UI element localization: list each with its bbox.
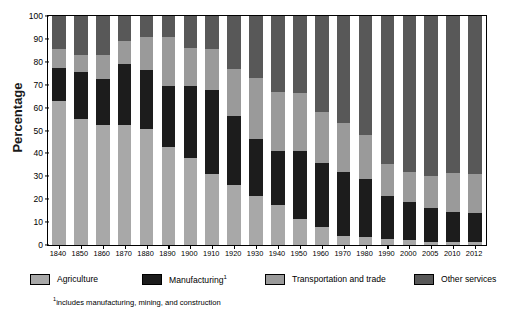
bar-1850[interactable] (74, 16, 88, 245)
bar-segment (359, 179, 373, 237)
bar-2000[interactable] (403, 16, 417, 245)
x-axis-tick (59, 245, 60, 249)
bar-1950[interactable] (293, 16, 307, 245)
y-axis-tick: 30 (34, 171, 48, 181)
bar-segment (468, 16, 482, 174)
legend-swatch-icon (30, 274, 50, 285)
bar-segment (424, 208, 438, 241)
x-axis-label: 1960 (313, 249, 329, 258)
x-axis-tick (81, 245, 82, 249)
bar-segment (293, 93, 307, 151)
bar-segment (118, 41, 132, 64)
bar-segment (271, 151, 285, 205)
y-axis-tick: 70 (34, 80, 48, 90)
bar-segment (96, 55, 110, 79)
legend-label: Agriculture (57, 274, 98, 284)
bar-1990[interactable] (381, 16, 395, 245)
bar-segment (184, 16, 198, 48)
x-axis-tick (387, 245, 388, 249)
x-axis-label: 1840 (50, 249, 66, 258)
bar-1860[interactable] (96, 16, 110, 245)
bar-segment (424, 16, 438, 176)
x-axis-tick (190, 245, 191, 249)
bar-segment (96, 16, 110, 55)
y-axis-tick: 10 (34, 217, 48, 227)
bar-2010[interactable] (446, 16, 460, 245)
chart-legend: AgricultureManufacturing1Transportation … (30, 272, 480, 288)
bar-segment (403, 172, 417, 202)
bar-segment (249, 196, 263, 245)
legend-item-0[interactable]: Agriculture (30, 272, 98, 286)
x-axis-tick (453, 245, 454, 249)
y-axis-tick: 100 (29, 11, 48, 21)
bar-segment (271, 205, 285, 245)
x-axis-label: 1970 (334, 249, 350, 258)
bar-segment (249, 16, 263, 78)
plot-area: 0102030405060708090100 (47, 15, 487, 246)
legend-label: Other services (441, 274, 496, 284)
legend-item-1[interactable]: Manufacturing1 (142, 272, 227, 286)
bar-1890[interactable] (162, 16, 176, 245)
x-axis-tick (278, 245, 279, 249)
bar-1900[interactable] (184, 16, 198, 245)
x-axis-tick (256, 245, 257, 249)
x-axis-label: 1950 (291, 249, 307, 258)
bar-segment (162, 86, 176, 147)
bar-segment (381, 164, 395, 196)
bar-2005[interactable] (424, 16, 438, 245)
bar-segment (293, 219, 307, 245)
bar-segment (403, 16, 417, 172)
y-axis-tick: 90 (34, 34, 48, 44)
bar-segment (52, 49, 66, 67)
bar-segment (205, 174, 219, 245)
bar-segment (162, 147, 176, 245)
bar-1940[interactable] (271, 16, 285, 245)
bar-2012[interactable] (468, 16, 482, 245)
bar-segment (205, 16, 219, 49)
bar-segment (293, 16, 307, 93)
bar-segment (96, 125, 110, 245)
x-axis-tick (103, 245, 104, 249)
bar-segment (52, 16, 66, 49)
bar-segment (184, 86, 198, 158)
stacked-bars-container (48, 16, 486, 245)
legend-item-2[interactable]: Transportation and trade (265, 272, 386, 286)
bar-segment (74, 72, 88, 119)
x-axis-label: 1850 (72, 249, 88, 258)
x-axis-tick (234, 245, 235, 249)
bar-1880[interactable] (140, 16, 154, 245)
x-axis-label: 2005 (422, 249, 438, 258)
legend-swatch-icon (142, 274, 162, 285)
x-axis-label: 1930 (247, 249, 263, 258)
bar-1980[interactable] (359, 16, 373, 245)
bar-segment (118, 125, 132, 245)
bar-segment (468, 174, 482, 213)
bar-segment (359, 16, 373, 135)
y-axis-tick: 0 (38, 240, 48, 250)
bar-1920[interactable] (227, 16, 241, 245)
bar-segment (249, 139, 263, 196)
legend-superscript: 1 (223, 274, 226, 280)
bar-1840[interactable] (52, 16, 66, 245)
bar-segment (118, 64, 132, 125)
x-axis-tick (431, 245, 432, 249)
x-axis-tick (212, 245, 213, 249)
bar-segment (315, 16, 329, 112)
x-axis-label: 1860 (94, 249, 110, 258)
bar-segment (74, 16, 88, 55)
bar-1930[interactable] (249, 16, 263, 245)
bar-1970[interactable] (337, 16, 351, 245)
x-axis-label: 1870 (115, 249, 131, 258)
bar-1960[interactable] (315, 16, 329, 245)
bar-segment (315, 112, 329, 162)
bar-segment (359, 135, 373, 179)
bar-1910[interactable] (205, 16, 219, 245)
x-axis-label: 1880 (137, 249, 153, 258)
x-axis-label: 2012 (466, 249, 482, 258)
x-axis-label: 2010 (444, 249, 460, 258)
legend-item-3[interactable]: Other services (414, 272, 496, 286)
bar-segment (205, 49, 219, 90)
bar-1870[interactable] (118, 16, 132, 245)
legend-swatch-icon (414, 274, 434, 285)
bar-segment (140, 70, 154, 130)
